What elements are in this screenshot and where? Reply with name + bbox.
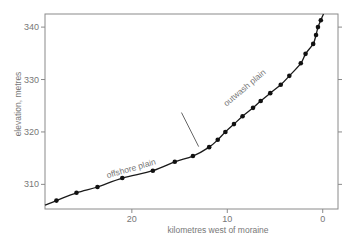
annotations: offshore plainoutwash plain xyxy=(105,67,268,180)
data-point xyxy=(303,52,308,57)
data-point xyxy=(54,198,59,203)
data-point xyxy=(278,82,283,87)
data-point xyxy=(251,106,256,111)
data-point xyxy=(268,91,273,96)
data-point xyxy=(319,18,324,23)
offshore-plain-label: offshore plain xyxy=(105,156,157,180)
y-tick-label: 310 xyxy=(24,179,39,189)
y-tick-label: 320 xyxy=(24,127,39,137)
data-point xyxy=(287,74,292,79)
data-point xyxy=(298,61,303,66)
data-point xyxy=(223,130,228,135)
plot-frame xyxy=(45,14,338,209)
data-point xyxy=(215,138,220,143)
data-point xyxy=(95,185,100,190)
y-axis-title: elevation, metres xyxy=(13,72,23,137)
profile-line xyxy=(45,14,324,205)
y-tick-label: 330 xyxy=(24,75,39,85)
data-point xyxy=(314,33,319,38)
y-tick-label: 340 xyxy=(24,22,39,32)
x-tick-label: 10 xyxy=(222,214,232,224)
slope-break-marker-line xyxy=(181,113,198,147)
elevation-profile-chart: 310320330340 20100 offshore plainoutwash… xyxy=(0,0,355,245)
data-point xyxy=(232,122,237,127)
data-point xyxy=(191,154,196,159)
data-point xyxy=(311,42,316,47)
x-tick-label: 0 xyxy=(320,214,325,224)
x-tick-label: 20 xyxy=(127,214,137,224)
x-axis-ticks: 20100 xyxy=(127,209,325,224)
data-point xyxy=(172,160,177,165)
data-point xyxy=(207,145,212,150)
y-axis-ticks: 310320330340 xyxy=(24,22,342,189)
plot-border xyxy=(45,14,338,209)
data-point xyxy=(316,25,321,30)
data-point xyxy=(240,114,245,119)
data-point xyxy=(258,99,263,104)
data-point xyxy=(151,168,156,173)
data-point xyxy=(74,190,79,195)
data-series xyxy=(45,14,324,205)
x-axis-title: kilometres west of moraine xyxy=(167,225,268,235)
